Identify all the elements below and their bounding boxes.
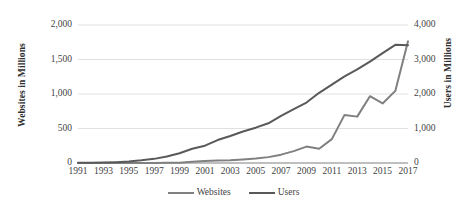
right-axis-tick-labels: 01,0002,0003,0004,000 [414, 0, 454, 213]
right-axis-tick: 3,000 [414, 55, 435, 65]
legend-line-swatch [168, 192, 194, 194]
x-axis-tick: 1999 [170, 166, 189, 176]
left-axis-tick-labels: 05001,0001,5002,000 [20, 0, 72, 213]
legend-item-websites[interactable]: Websites [168, 188, 231, 198]
right-axis-tick: 1,000 [414, 124, 435, 134]
x-axis-tick: 2013 [348, 166, 367, 176]
x-axis-tick: 1993 [94, 166, 113, 176]
x-axis-tick: 2009 [297, 166, 316, 176]
plot-area [78, 25, 408, 163]
x-axis-tick: 2017 [399, 166, 418, 176]
x-axis-tick: 2003 [221, 166, 240, 176]
left-axis-tick: 2,000 [51, 20, 72, 30]
x-axis-tick: 2015 [373, 166, 392, 176]
x-axis-tick: 2007 [272, 166, 291, 176]
legend-line-swatch [249, 192, 275, 194]
plot-svg [78, 25, 408, 163]
x-axis-tick: 1997 [145, 166, 164, 176]
chart-legend: WebsitesUsers [0, 188, 467, 198]
right-axis-tick: 2,000 [414, 89, 435, 99]
x-axis-tick: 1991 [69, 166, 88, 176]
gridlines [78, 25, 408, 163]
legend-label: Users [278, 188, 300, 198]
x-axis-tick: 1995 [119, 166, 138, 176]
x-axis-tick-labels: 1991199319951997199920012003200520072009… [78, 166, 408, 182]
legend-item-users[interactable]: Users [249, 188, 300, 198]
dual-axis-line-chart: Websites in Millions Users in Millions 0… [0, 0, 467, 213]
right-axis-tick: 4,000 [414, 20, 435, 30]
left-axis-tick: 1,000 [51, 89, 72, 99]
left-axis-tick: 500 [58, 124, 72, 134]
x-axis-tick: 2011 [323, 166, 342, 176]
left-axis-tick: 1,500 [51, 55, 72, 65]
legend-label: Websites [197, 188, 231, 198]
series-line-users [78, 45, 408, 163]
x-axis-tick: 2005 [246, 166, 265, 176]
x-axis-tick: 2001 [195, 166, 214, 176]
